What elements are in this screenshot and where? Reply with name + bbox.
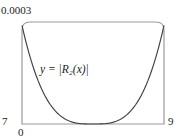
y-min-tick-label: 0 (18, 127, 24, 137)
x-max-tick-label: 9 (168, 116, 174, 127)
chart-canvas (0, 0, 181, 137)
x-min-tick-label: 7 (2, 116, 8, 127)
y-max-tick-label: 0.0003 (1, 5, 31, 16)
curve-annotation: y = |R₂(x)| (40, 64, 89, 76)
